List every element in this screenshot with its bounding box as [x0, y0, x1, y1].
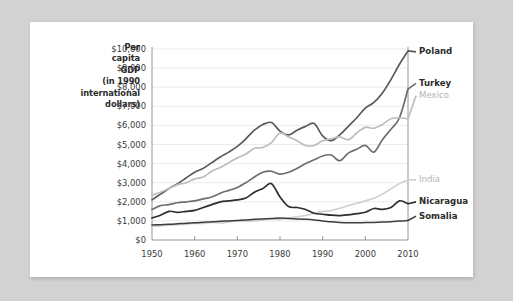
series-line-mexico — [152, 118, 408, 195]
y-tick-label: $0 — [135, 235, 146, 245]
y-tick-label: $4,000 — [117, 159, 146, 169]
series-leader-turkey — [408, 83, 416, 89]
series-label-nicaragua: Nicaragua — [419, 196, 468, 206]
y-axis-title-line-2: capita — [48, 53, 140, 64]
y-axis-title-line-3: GDP — [48, 65, 140, 76]
y-tick-label: $3,000 — [117, 178, 146, 188]
x-tick-label: 2010 — [397, 249, 418, 259]
x-tick-label: 1990 — [312, 249, 333, 259]
chart-figure: Per capita GDP (in 1990 international do… — [30, 22, 473, 277]
x-tick-label: 1960 — [184, 249, 205, 259]
gridlines — [152, 49, 408, 221]
series-label-somalia: Somalia — [419, 211, 458, 221]
series-line-india — [152, 180, 408, 226]
screenshot-root: Per capita GDP (in 1990 international do… — [0, 0, 513, 301]
series-label-mexico: Mexico — [419, 90, 449, 100]
series-line-turkey — [152, 89, 408, 209]
x-tick-label: 1980 — [269, 249, 290, 259]
series-label-poland: Poland — [419, 46, 452, 56]
y-tick-label: $1,000 — [117, 216, 146, 226]
y-tick-label: $5,000 — [117, 140, 146, 150]
series-label-india: India — [419, 174, 440, 184]
x-axis-tick-labels: 1950196019701980199020002010 — [141, 249, 418, 259]
series-label-turkey: Turkey — [419, 78, 452, 88]
y-axis-title-line-5: international — [48, 88, 140, 99]
series-leader-mexico — [408, 96, 416, 119]
y-axis-title: Per capita GDP (in 1990 international do… — [48, 42, 140, 110]
y-axis-title-line-6: dollars) — [48, 99, 140, 110]
x-tick-label: 2000 — [355, 249, 376, 259]
x-tick-label: 1950 — [141, 249, 162, 259]
x-tick-label: 1970 — [227, 249, 248, 259]
series-labels: PolandTurkeyMexicoIndiaNicaraguaSomalia — [419, 46, 468, 220]
data-series-lines — [152, 51, 416, 226]
y-tick-label: $6,000 — [117, 120, 146, 130]
series-leader-poland — [408, 51, 416, 52]
series-leader-somalia — [408, 216, 416, 220]
chart-card: Per capita GDP (in 1990 international do… — [30, 22, 473, 277]
y-axis-title-line-4: (in 1990 — [48, 76, 140, 87]
y-axis-title-line-1: Per — [48, 42, 140, 53]
y-tick-label: $2,000 — [117, 197, 146, 207]
series-leader-nicaragua — [408, 202, 416, 204]
